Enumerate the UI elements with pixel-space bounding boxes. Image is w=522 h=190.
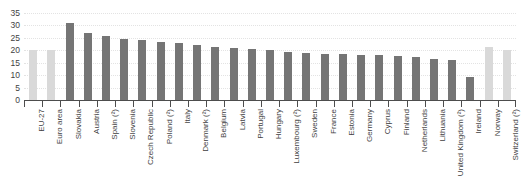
x-tick bbox=[152, 101, 153, 107]
y-tick-label: 15 bbox=[11, 58, 20, 67]
x-tick bbox=[243, 101, 244, 107]
x-tick-label: Latvia bbox=[238, 109, 247, 130]
x-tick bbox=[261, 101, 262, 107]
x-tick bbox=[60, 101, 61, 107]
bar bbox=[66, 23, 74, 100]
bars bbox=[24, 13, 516, 100]
y-tick-label: 0 bbox=[15, 96, 20, 105]
x-tick bbox=[133, 101, 134, 107]
bar bbox=[175, 43, 183, 100]
y-tick-label: 30 bbox=[11, 21, 20, 30]
bar bbox=[84, 33, 92, 100]
x-tick bbox=[425, 101, 426, 107]
x-tick bbox=[498, 101, 499, 107]
x-tick-label: Germany bbox=[365, 109, 374, 142]
bar bbox=[230, 48, 238, 100]
x-tick bbox=[407, 101, 408, 107]
x-tick bbox=[352, 101, 353, 107]
x-tick bbox=[370, 101, 371, 107]
x-tick bbox=[316, 101, 317, 107]
bar bbox=[29, 50, 37, 100]
x-tick bbox=[515, 101, 516, 107]
x-tick bbox=[279, 101, 280, 107]
x-tick-label: Czech Republic bbox=[146, 109, 155, 165]
x-tick-label: Hungary bbox=[274, 109, 283, 139]
x-tick bbox=[388, 101, 389, 107]
bar bbox=[120, 39, 128, 100]
x-tick-label: Poland (²) bbox=[165, 109, 174, 144]
y-tick-label: 5 bbox=[15, 83, 20, 92]
x-tick bbox=[79, 101, 80, 107]
bar bbox=[193, 45, 201, 100]
x-tick bbox=[443, 101, 444, 107]
x-tick bbox=[297, 101, 298, 107]
bar bbox=[321, 54, 329, 100]
y-tick-label: 35 bbox=[11, 9, 20, 18]
bar bbox=[248, 49, 256, 100]
x-tick bbox=[42, 101, 43, 107]
bar bbox=[47, 50, 55, 100]
x-tick-label: Cyprus bbox=[383, 109, 392, 134]
x-tick-label: Norway bbox=[493, 109, 502, 136]
bar bbox=[503, 50, 511, 100]
bar bbox=[448, 60, 456, 100]
x-tick-label: Finland bbox=[402, 109, 411, 135]
x-tick bbox=[480, 101, 481, 107]
x-tick-label: Euro area bbox=[55, 109, 64, 144]
y-axis: 05101520253035 bbox=[0, 0, 22, 113]
x-tick-label: Spain (²) bbox=[110, 109, 119, 140]
x-tick-label: Denmark (²) bbox=[201, 109, 210, 152]
bar bbox=[466, 77, 474, 100]
y-tick-label: 25 bbox=[11, 33, 20, 42]
x-tick bbox=[224, 101, 225, 107]
bar bbox=[284, 52, 292, 100]
x-tick-label: Italy bbox=[183, 109, 192, 124]
bar-chart: 05101520253035 EU-27Euro areaSlovakiaAus… bbox=[0, 0, 522, 190]
x-tick bbox=[206, 101, 207, 107]
x-tick-label: Austria bbox=[92, 109, 101, 134]
bar bbox=[157, 42, 165, 100]
bar bbox=[302, 53, 310, 100]
bar bbox=[394, 56, 402, 100]
x-tick-label: Netherlands bbox=[420, 109, 429, 152]
x-tick-label: Lithuania bbox=[438, 109, 447, 141]
x-tick-label: Ireland bbox=[474, 109, 483, 133]
x-tick bbox=[97, 101, 98, 107]
bar bbox=[266, 50, 274, 100]
x-tick bbox=[170, 101, 171, 107]
bar bbox=[485, 47, 493, 100]
x-tick bbox=[334, 101, 335, 107]
x-tick-label: France bbox=[329, 109, 338, 134]
bar bbox=[357, 55, 365, 100]
x-tick-label: Sweden bbox=[310, 109, 319, 138]
bar bbox=[430, 59, 438, 100]
x-tick bbox=[188, 101, 189, 107]
x-tick bbox=[461, 101, 462, 107]
bar bbox=[138, 40, 146, 100]
x-axis: EU-27Euro areaSlovakiaAustriaSpain (²)Sl… bbox=[24, 101, 516, 190]
x-tick bbox=[115, 101, 116, 107]
x-tick-label: Belgium bbox=[219, 109, 228, 138]
x-tick-label: Estonia bbox=[347, 109, 356, 136]
bar bbox=[211, 47, 219, 100]
x-tick-label: Luxembourg (²) bbox=[292, 109, 301, 164]
x-tick-label: United Kingdom (²) bbox=[456, 109, 465, 176]
x-tick-label: EU-27 bbox=[37, 109, 46, 132]
y-tick-label: 10 bbox=[11, 71, 20, 80]
bar bbox=[102, 36, 110, 100]
plot-area bbox=[24, 13, 516, 100]
y-tick-label: 20 bbox=[11, 46, 20, 55]
bar bbox=[339, 54, 347, 100]
x-tick-label: Slovenia bbox=[128, 109, 137, 140]
bar bbox=[412, 57, 420, 100]
x-tick-label: Switzerland (²) bbox=[511, 109, 520, 161]
x-tick-label: Portugal bbox=[256, 109, 265, 139]
x-tick-label: Slovakia bbox=[74, 109, 83, 139]
x-tick bbox=[24, 101, 25, 107]
bar bbox=[375, 55, 383, 100]
